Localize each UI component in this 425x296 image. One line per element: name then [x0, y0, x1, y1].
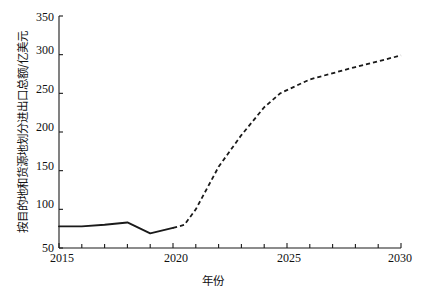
y-tick-marks [59, 16, 63, 248]
plot-area [0, 0, 425, 296]
x-tick-marks [59, 243, 401, 248]
chart-figure: 按目的地和货源地划分进出口总额/亿美元 年份 350 300 250 200 1… [0, 0, 425, 296]
series-line-historical [59, 222, 173, 233]
series-line-forecast [173, 55, 401, 227]
